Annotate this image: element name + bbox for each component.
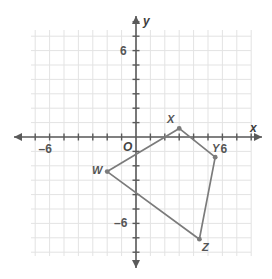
vertex-label-w: W (92, 165, 102, 176)
x-axis-tick-label-6: 6 (220, 143, 227, 155)
x-axis-tick-label-neg6: –6 (39, 143, 52, 155)
origin-label: O (123, 141, 132, 153)
y-axis-label: y (143, 15, 150, 27)
coordinate-plane-figure: –6 6 6 –6 x y O W X Y Z (0, 0, 272, 279)
y-axis-tick-label-6: 6 (120, 45, 127, 57)
vertex-label-x: X (167, 114, 174, 125)
x-axis-label: x (250, 122, 257, 134)
y-axis-tick-label-neg6: –6 (114, 217, 127, 229)
vertex-label-z: Z (202, 242, 209, 253)
plot-canvas (0, 0, 272, 279)
vertex-label-y: Y (212, 143, 219, 154)
